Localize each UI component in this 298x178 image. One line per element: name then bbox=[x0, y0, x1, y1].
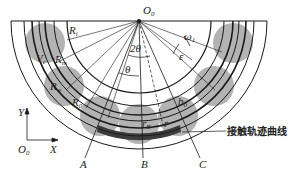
ray-a-label: A bbox=[79, 158, 87, 170]
ray-b-label: B bbox=[141, 158, 148, 170]
center-point bbox=[137, 19, 141, 23]
x-axis-label: X bbox=[49, 143, 58, 155]
ri-label: Ri bbox=[68, 24, 78, 38]
contact-trajectory-diagram: O0 Ri Rm Rw R0 Vc 2θ θ ε ω1 b0 rB r A B … bbox=[0, 0, 298, 178]
r0-label: R0 bbox=[71, 96, 83, 110]
origin-label: O0 bbox=[18, 143, 30, 157]
b0-label: b0 bbox=[178, 95, 188, 109]
epsilon-label: ε bbox=[179, 50, 184, 62]
theta-label: θ bbox=[125, 63, 131, 75]
ray-c-label: C bbox=[199, 158, 207, 170]
omega-label: ω1 bbox=[184, 30, 195, 44]
center-label: O0 bbox=[143, 4, 155, 18]
coordinate-axes bbox=[25, 108, 58, 142]
y-axis-label: Y bbox=[18, 106, 26, 118]
r-label: r bbox=[164, 117, 169, 129]
two-theta-label: 2θ bbox=[130, 42, 142, 54]
rm-label: Rm bbox=[54, 53, 67, 67]
callout-label: 接触轨迹曲线 bbox=[227, 125, 287, 137]
